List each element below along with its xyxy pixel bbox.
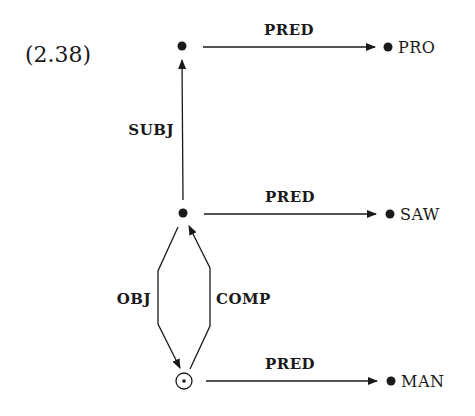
edge-subj bbox=[182, 60, 183, 200]
example-number: (2.38) bbox=[25, 42, 91, 67]
edge-label-pred-top: PRED bbox=[264, 21, 314, 39]
edge-label-pred-bottom: PRED bbox=[265, 355, 315, 373]
edge-label-pred-middle: PRED bbox=[265, 188, 315, 206]
value-dot-saw bbox=[386, 210, 395, 219]
node-middle bbox=[179, 209, 188, 218]
value-man: MAN bbox=[401, 372, 444, 391]
value-dot-man bbox=[387, 377, 396, 386]
node-bottom-center bbox=[182, 379, 186, 383]
value-dot-pro bbox=[384, 43, 393, 52]
value-saw: SAW bbox=[400, 205, 440, 224]
node-top bbox=[178, 42, 187, 51]
edge-label-comp: COMP bbox=[216, 290, 271, 308]
feature-graph-diagram: (2.38) PRED PRO SUBJ PRED SAW OBJ COMP P… bbox=[0, 0, 475, 416]
value-pro: PRO bbox=[398, 38, 435, 57]
edge-comp bbox=[189, 226, 210, 369]
edge-obj bbox=[158, 227, 180, 368]
edge-label-subj: SUBJ bbox=[128, 121, 174, 139]
edge-label-obj: OBJ bbox=[117, 290, 151, 308]
